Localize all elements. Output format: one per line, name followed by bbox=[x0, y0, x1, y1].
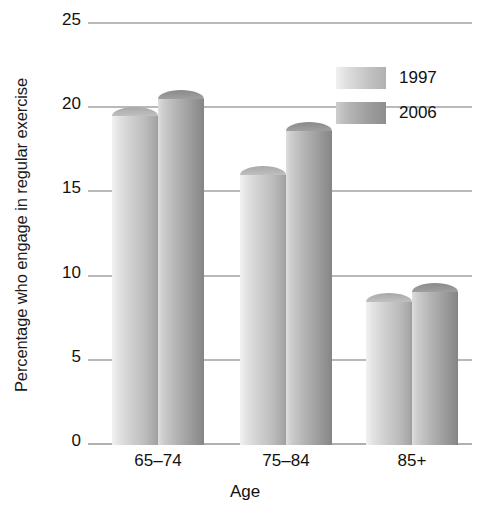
bar-body bbox=[286, 131, 332, 445]
y-axis-title: Percentage who engage in regular exercis… bbox=[4, 0, 38, 470]
bar-2006-75-84[interactable] bbox=[286, 122, 332, 445]
legend-item-2006[interactable]: 2006 bbox=[336, 101, 437, 125]
bar-chart: Percentage who engage in regular exercis… bbox=[0, 0, 490, 524]
y-tick-label-25: 25 bbox=[62, 10, 81, 30]
legend-label-1997: 1997 bbox=[399, 68, 437, 88]
legend-swatch-2006-icon bbox=[336, 102, 386, 124]
bar-2006-65-74[interactable] bbox=[158, 90, 204, 445]
bar-2006-85plus[interactable] bbox=[412, 283, 458, 445]
bar-body bbox=[412, 292, 458, 445]
bar-body bbox=[158, 99, 204, 445]
x-axis-title: Age bbox=[0, 482, 490, 502]
x-tick-label-85plus: 85+ bbox=[366, 451, 458, 471]
bar-body bbox=[112, 116, 158, 446]
y-tick-label-0: 0 bbox=[72, 431, 81, 451]
legend-swatch-1997-icon bbox=[336, 67, 386, 89]
legend-item-1997[interactable]: 1997 bbox=[336, 66, 437, 90]
bar-body bbox=[240, 175, 286, 446]
bar-body bbox=[366, 302, 412, 445]
x-tick-label-75-84: 75–84 bbox=[240, 451, 332, 471]
gridline-25: 25 bbox=[88, 22, 472, 24]
bar-1997-65-74[interactable] bbox=[112, 107, 158, 446]
legend-label-2006: 2006 bbox=[399, 103, 437, 123]
legend: 1997 2006 bbox=[336, 66, 437, 136]
y-tick-label-5: 5 bbox=[72, 347, 81, 367]
y-tick-label-15: 15 bbox=[62, 178, 81, 198]
y-tick-label-10: 10 bbox=[62, 263, 81, 283]
bar-1997-75-84[interactable] bbox=[240, 166, 286, 446]
y-tick-label-20: 20 bbox=[62, 94, 81, 114]
bar-1997-85plus[interactable] bbox=[366, 293, 412, 445]
x-tick-label-65-74: 65–74 bbox=[112, 451, 204, 471]
